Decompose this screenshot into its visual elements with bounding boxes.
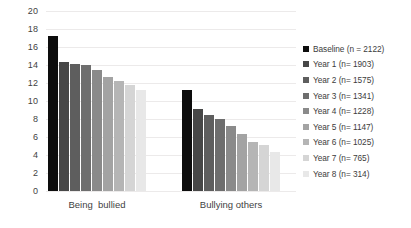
legend-label: Year 1 (n= 1903) — [313, 59, 374, 69]
chart-legend: Baseline (n = 2122)Year 1 (n= 1903)Year … — [303, 41, 411, 181]
bar-group — [182, 11, 280, 191]
legend-item[interactable]: Year 5 (n= 1147) — [303, 119, 411, 135]
y-axis-tick-label: 10 — [28, 96, 38, 106]
legend-label: Baseline (n = 2122) — [313, 44, 384, 54]
legend-label: Year 5 (n= 1147) — [313, 122, 373, 132]
legend-swatch-icon — [303, 108, 309, 114]
bar — [270, 152, 280, 191]
bar — [59, 62, 69, 191]
gridline — [46, 191, 296, 192]
legend-item[interactable]: Year 8 (n= 314) — [303, 166, 411, 182]
legend-swatch-icon — [303, 139, 309, 145]
y-axis-tick-label: 12 — [28, 78, 38, 88]
bar — [237, 134, 247, 191]
legend-label: Year 4 (n= 1228) — [313, 106, 374, 116]
legend-item[interactable]: Year 6 (n= 1025) — [303, 135, 411, 151]
legend-swatch-icon — [303, 93, 309, 99]
y-axis-tick-label: 0 — [33, 186, 38, 196]
legend-label: Year 3 (n= 1341) — [313, 91, 374, 101]
legend-label: Year 2 (n= 1575) — [313, 75, 374, 85]
legend-item[interactable]: Year 2 (n= 1575) — [303, 72, 411, 88]
y-axis-tick-label: 18 — [28, 24, 38, 34]
bar-chart: 02468101214161820 Being bulliedBullying … — [0, 0, 411, 228]
x-axis-label: Bullying others — [152, 199, 310, 210]
bar — [204, 115, 214, 191]
legend-item[interactable]: Baseline (n = 2122) — [303, 41, 411, 57]
bar — [226, 126, 236, 191]
bar — [215, 119, 225, 191]
legend-swatch-icon — [303, 171, 309, 177]
bar — [136, 90, 146, 191]
legend-swatch-icon — [303, 155, 309, 161]
bar — [193, 109, 203, 191]
legend-item[interactable]: Year 3 (n= 1341) — [303, 88, 411, 104]
y-axis-tick-label: 2 — [33, 168, 38, 178]
y-axis-tick-label: 4 — [33, 150, 38, 160]
y-axis-tick-label: 8 — [33, 114, 38, 124]
bar — [114, 81, 124, 191]
bar — [48, 36, 58, 191]
legend-label: Year 6 (n= 1025) — [313, 137, 374, 147]
bar-group — [48, 11, 146, 191]
legend-item[interactable]: Year 1 (n= 1903) — [303, 57, 411, 73]
legend-swatch-icon — [303, 46, 309, 52]
bar — [182, 90, 192, 191]
bar — [70, 64, 80, 191]
legend-swatch-icon — [303, 61, 309, 67]
y-axis-tick-label: 16 — [28, 42, 38, 52]
bar — [248, 142, 258, 191]
y-axis-tick-label: 6 — [33, 132, 38, 142]
bar — [81, 65, 91, 191]
legend-item[interactable]: Year 4 (n= 1228) — [303, 103, 411, 119]
bar — [103, 77, 113, 191]
legend-item[interactable]: Year 7 (n= 765) — [303, 150, 411, 166]
y-axis: 02468101214161820 — [0, 0, 46, 202]
plot-area — [46, 11, 296, 191]
legend-swatch-icon — [303, 77, 309, 83]
legend-label: Year 8 (n= 314) — [313, 169, 369, 179]
y-axis-tick-label: 20 — [28, 6, 38, 16]
legend-swatch-icon — [303, 124, 309, 130]
bar — [125, 85, 135, 191]
bar — [259, 145, 269, 191]
y-axis-tick-label: 14 — [28, 60, 38, 70]
legend-label: Year 7 (n= 765) — [313, 153, 369, 163]
bar — [92, 70, 102, 191]
